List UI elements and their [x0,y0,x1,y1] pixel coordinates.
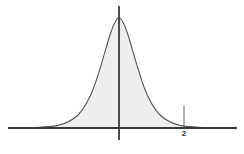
z-tick-label: 2 [182,130,186,138]
normal-distribution-figure: 2 [0,0,244,154]
